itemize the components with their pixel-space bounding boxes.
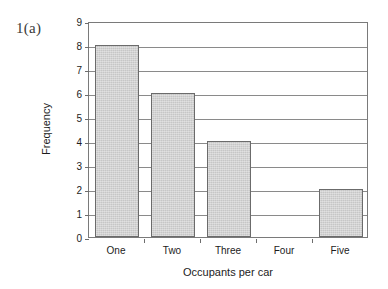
y-axis-tick <box>85 23 89 24</box>
y-axis-tick-label: 1 <box>63 210 82 220</box>
x-axis-tick <box>256 239 257 243</box>
x-axis-tick <box>200 239 201 243</box>
y-axis-tick <box>85 47 89 48</box>
x-axis-tick-label: Five <box>331 245 350 256</box>
y-axis-tick <box>85 239 89 240</box>
bar <box>151 93 195 237</box>
x-axis-tick-label: Four <box>274 245 295 256</box>
bar-slot <box>257 23 313 237</box>
y-axis-tick-label: 0 <box>63 234 82 244</box>
y-axis-tick <box>85 71 89 72</box>
y-axis-tick <box>85 215 89 216</box>
y-axis-tick <box>85 95 89 96</box>
bar <box>95 45 139 237</box>
y-axis-tick-label: 3 <box>63 162 82 172</box>
bar-slot <box>201 23 257 237</box>
y-axis-tick-label: 5 <box>63 114 82 124</box>
y-axis-tick <box>85 119 89 120</box>
x-axis-tick <box>312 239 313 243</box>
figure-label: 1(a) <box>16 20 41 37</box>
y-axis-title: Frequency <box>40 103 52 155</box>
bars-group <box>89 23 367 237</box>
chart-plot-area: 0123456789 <box>88 22 368 238</box>
bar <box>319 189 363 237</box>
y-axis-tick <box>85 191 89 192</box>
y-axis-tick <box>85 167 89 168</box>
x-axis-tick-label: One <box>107 245 126 256</box>
bar-slot <box>145 23 201 237</box>
y-axis-tick-label: 9 <box>63 18 82 28</box>
x-axis-tick-label: Two <box>163 245 181 256</box>
y-axis-tick <box>85 143 89 144</box>
y-axis-tick-label: 7 <box>63 66 82 76</box>
y-axis-tick-label: 4 <box>63 138 82 148</box>
x-axis-title: Occupants per car <box>183 266 273 278</box>
y-axis-tick-label: 2 <box>63 186 82 196</box>
x-axis-tick-label: Three <box>215 245 241 256</box>
y-axis-tick-label: 8 <box>63 42 82 52</box>
bar-slot <box>89 23 145 237</box>
x-axis-tick <box>144 239 145 243</box>
bar <box>207 141 251 237</box>
y-axis-tick-label: 6 <box>63 90 82 100</box>
bar-slot <box>313 23 369 237</box>
